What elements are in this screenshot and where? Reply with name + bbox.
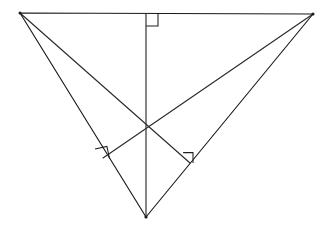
- vertex-top-right-dot: [312, 13, 315, 16]
- altitude-from-top-left-vertex: [20, 13, 190, 163]
- triangle-altitudes-svg: [0, 0, 330, 233]
- vertex-top-left-dot: [19, 12, 22, 15]
- right-angle-mark-top-icon: [146, 14, 158, 26]
- geometry-diagram-canvas: [0, 0, 330, 233]
- vertex-bottom-dot: [144, 215, 147, 218]
- right-angle-mark-lower-left-icon: [95, 146, 110, 158]
- altitude-from-top-right-vertex: [103, 14, 313, 158]
